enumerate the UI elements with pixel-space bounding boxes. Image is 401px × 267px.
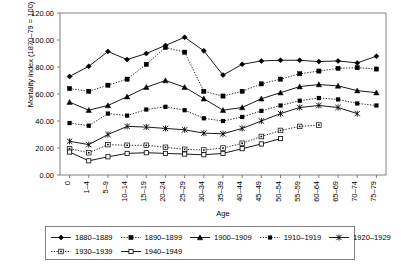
data-point-marker (221, 146, 226, 151)
data-point-marker (105, 103, 110, 108)
legend-marker (59, 249, 64, 254)
data-point-marker (163, 45, 167, 49)
mortality-index-chart: Mortality index (1870–79 = 100) 0.0020.0… (0, 0, 401, 267)
y-tick-label: 100.00 (31, 36, 54, 45)
data-point-marker (278, 111, 283, 117)
data-point-marker (259, 134, 264, 139)
data-point-marker (163, 78, 168, 83)
data-point-marker (221, 151, 225, 155)
legend-entry[interactable]: 1890–1899 (120, 233, 183, 242)
series-line (70, 139, 281, 161)
data-point-marker (317, 96, 321, 100)
legend-label: 1930–1939 (75, 247, 113, 256)
x-tick-label: 40–44 (235, 181, 244, 202)
data-point-marker (86, 150, 91, 155)
data-point-marker (144, 62, 148, 66)
data-point-marker (317, 123, 322, 128)
legend-marker (128, 249, 132, 253)
data-point-marker (239, 125, 244, 131)
data-point-marker (124, 94, 129, 99)
y-tick-label: 20.00 (35, 144, 54, 153)
data-point-marker (316, 59, 321, 64)
y-tick-label: 0.00 (39, 171, 54, 180)
x-tick-label: 20–24 (158, 181, 167, 202)
data-point-marker (278, 128, 283, 133)
series-1940-1949 (67, 136, 282, 162)
y-tick-label: 120.00 (31, 9, 54, 18)
data-point-marker (259, 109, 263, 113)
legend-swatch (259, 233, 281, 242)
legend-entry[interactable]: 1910–1919 (259, 233, 322, 242)
legend-label: 1910–1919 (284, 233, 322, 242)
data-point-marker (221, 119, 225, 123)
x-axis-title: Age (216, 209, 229, 218)
data-point-marker (67, 74, 72, 79)
x-tick-label: 30–34 (197, 181, 206, 202)
data-point-marker (144, 51, 149, 56)
data-point-marker (163, 105, 167, 109)
chart-legend: 1880–18891890–18991900–19091910–19191920… (45, 226, 355, 260)
x-tick-label: 70–74 (350, 181, 359, 202)
data-point-marker (221, 94, 225, 98)
data-point-marker (240, 141, 245, 146)
data-point-marker (374, 67, 378, 71)
x-tick-label: 65–69 (331, 181, 340, 202)
x-tick-label: 60–64 (312, 181, 321, 202)
data-point-marker (240, 147, 244, 151)
data-point-marker (87, 159, 91, 163)
data-point-marker (355, 60, 360, 65)
data-point-marker (144, 107, 148, 111)
data-point-marker (278, 103, 282, 107)
data-point-marker (67, 150, 71, 154)
data-point-marker (317, 69, 321, 73)
data-point-marker (297, 124, 302, 129)
series-1930-1939 (67, 123, 321, 155)
data-point-marker (202, 153, 206, 157)
data-point-marker (106, 155, 110, 159)
series-1890-1899 (67, 45, 378, 98)
x-tick-label: 75–79 (369, 181, 378, 202)
data-point-marker (183, 108, 187, 112)
data-point-marker (239, 105, 244, 110)
legend-marker (268, 235, 272, 239)
data-point-marker (163, 145, 168, 150)
data-point-marker (278, 77, 282, 81)
legend-entry[interactable]: 1900–1909 (189, 233, 252, 242)
data-point-marker (259, 82, 263, 86)
series-1880-1889 (67, 35, 379, 79)
x-tick-label: 55–59 (293, 181, 302, 202)
data-point-marker (297, 58, 302, 63)
data-point-marker (67, 121, 71, 125)
data-point-marker (240, 62, 245, 67)
data-point-marker (240, 89, 244, 93)
legend-entry[interactable]: 1920–1929 (328, 233, 391, 242)
data-point-marker (106, 111, 110, 115)
legend-entry[interactable]: 1880–1889 (50, 233, 113, 242)
series-1920-1929 (67, 102, 360, 147)
data-point-marker (67, 87, 71, 91)
data-point-marker (298, 72, 302, 76)
legend-marker (59, 235, 64, 240)
data-point-marker (202, 116, 206, 120)
legend-entry[interactable]: 1940–1949 (120, 247, 183, 256)
legend-entry[interactable]: 1930–1939 (50, 247, 113, 256)
series-line (70, 37, 377, 76)
data-point-marker (298, 99, 302, 103)
data-point-marker (106, 83, 110, 87)
data-point-marker (278, 136, 282, 140)
x-tick-label: 5–9 (101, 181, 110, 194)
x-tick-label: 35–39 (216, 181, 225, 202)
data-point-marker (182, 147, 187, 152)
data-point-marker (163, 151, 167, 155)
data-point-marker (202, 148, 207, 153)
data-point-marker (67, 99, 72, 104)
x-tick-label: 25–29 (178, 181, 187, 202)
legend-row-2: 1930–19391940–1949 (50, 244, 350, 258)
data-point-marker (106, 142, 111, 147)
x-tick-label: 45–49 (254, 181, 263, 202)
x-tick-label: 10–14 (120, 181, 129, 202)
data-point-marker (125, 57, 130, 62)
data-point-marker (259, 58, 264, 63)
data-point-marker (87, 124, 91, 128)
data-point-marker (125, 77, 129, 81)
